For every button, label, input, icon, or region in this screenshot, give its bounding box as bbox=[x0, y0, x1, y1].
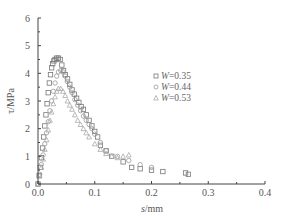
data-point bbox=[46, 91, 50, 95]
y-tick-label: 0 bbox=[25, 179, 30, 190]
data-point bbox=[41, 135, 45, 139]
legend-item: W=0.35 bbox=[154, 71, 191, 81]
data-point bbox=[48, 73, 52, 77]
data-point bbox=[90, 126, 94, 130]
data-point bbox=[84, 118, 88, 122]
data-point bbox=[77, 100, 81, 104]
data-point bbox=[60, 63, 64, 67]
x-tick-label: 0.4 bbox=[259, 187, 272, 198]
data-point bbox=[121, 154, 126, 159]
data-point bbox=[93, 132, 97, 136]
data-point bbox=[44, 113, 48, 117]
data-point bbox=[73, 97, 77, 101]
data-point bbox=[43, 142, 47, 146]
y-tick-label: 2 bbox=[25, 123, 30, 134]
y-tick-label: 4 bbox=[25, 68, 30, 79]
data-point bbox=[51, 61, 55, 65]
chart: 0.00.10.20.30.40123456 W=0.35W=0.44W=0.5… bbox=[0, 0, 284, 216]
y-axis-label: τ/MPa bbox=[5, 88, 16, 114]
series-w-0-44 bbox=[36, 68, 154, 186]
data-point bbox=[87, 122, 91, 126]
data-point bbox=[52, 59, 56, 63]
legend-marker-circle-icon bbox=[154, 85, 158, 89]
data-point bbox=[45, 102, 49, 106]
x-tick-label: 0.1 bbox=[89, 187, 102, 198]
data-point bbox=[53, 81, 57, 85]
data-point bbox=[149, 165, 153, 169]
data-point bbox=[138, 162, 142, 166]
y-tick-label: 6 bbox=[25, 13, 30, 24]
y-tick-label: 5 bbox=[25, 40, 30, 51]
data-point bbox=[121, 160, 125, 164]
data-point bbox=[127, 158, 131, 162]
x-tick-label: 0.2 bbox=[145, 187, 158, 198]
legend-marker-square-icon bbox=[154, 74, 158, 78]
data-point bbox=[81, 114, 85, 118]
series-w-0-53 bbox=[36, 86, 132, 186]
y-tick-label: 3 bbox=[25, 96, 30, 107]
data-point bbox=[49, 66, 53, 70]
data-point bbox=[183, 171, 187, 175]
data-point bbox=[55, 74, 59, 78]
legend-label: W=0.35 bbox=[161, 71, 191, 81]
data-point bbox=[47, 81, 51, 85]
data-point bbox=[92, 141, 97, 146]
x-tick-label: 0.3 bbox=[202, 187, 215, 198]
data-point bbox=[65, 99, 70, 104]
data-point bbox=[75, 118, 80, 123]
x-axis-label-unit: /mm bbox=[145, 203, 164, 214]
x-axis-label: s/mm bbox=[141, 203, 163, 214]
data-point bbox=[161, 169, 165, 173]
data-point bbox=[43, 124, 47, 128]
data-point bbox=[53, 94, 58, 99]
y-tick-label: 1 bbox=[25, 151, 30, 162]
data-point bbox=[95, 135, 99, 139]
data-point bbox=[41, 157, 46, 162]
data-point bbox=[61, 89, 66, 94]
legend-item: W=0.53 bbox=[154, 93, 191, 103]
data-point bbox=[138, 167, 142, 171]
data-point bbox=[126, 152, 131, 157]
legend-label: W=0.44 bbox=[161, 82, 191, 92]
legend-item: W=0.44 bbox=[154, 82, 191, 92]
legend-marker-triangle-icon bbox=[154, 96, 159, 101]
x-tick-label: 0.0 bbox=[32, 187, 45, 198]
axes: 0.00.10.20.30.40123456 bbox=[25, 13, 271, 199]
data-point bbox=[186, 172, 190, 176]
legend: W=0.35W=0.44W=0.53 bbox=[154, 71, 191, 103]
legend-label: W=0.53 bbox=[161, 93, 191, 103]
data-point bbox=[72, 112, 77, 117]
data-point bbox=[98, 140, 102, 144]
data-point bbox=[78, 108, 82, 112]
data-point bbox=[129, 165, 133, 169]
